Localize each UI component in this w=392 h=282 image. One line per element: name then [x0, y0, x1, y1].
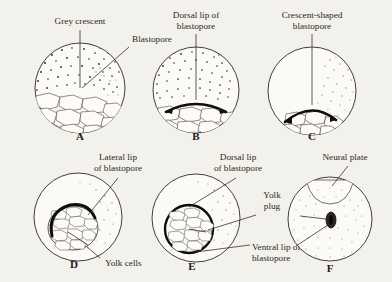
label-yolk-plug-line2: plug — [264, 201, 281, 211]
gastrulation-figure: Grey crescent Blastopore A — [0, 0, 392, 282]
label-blastopore: Blastopore — [132, 34, 172, 44]
panel-d: Lateral lip of blastopore Yolk cells D — [34, 152, 142, 270]
panel-letter-d: D — [70, 258, 78, 270]
label-dorsal-lip-line2: blastopore — [177, 21, 215, 31]
label-lateral-lip-line1: Lateral lip — [99, 152, 137, 162]
label-yolk-plug-line1: Yolk — [263, 190, 281, 200]
label-dorsal-lip-line1: Dorsal lip of — [173, 10, 220, 20]
label-grey-crescent: Grey crescent — [55, 16, 106, 26]
label-dorsal-lip-e-line2: of blastopore — [214, 163, 262, 173]
label-lateral-lip-line2: of blastopore — [94, 163, 142, 173]
panel-letter-f: F — [327, 262, 334, 274]
panel-a: Grey crescent Blastopore A — [32, 16, 172, 150]
panel-f: Neural plate F — [288, 152, 372, 274]
label-crescent-line2: blastopore — [293, 21, 331, 31]
panel-letter-a: A — [76, 130, 84, 142]
panel-letter-e: E — [188, 260, 195, 272]
label-ventral-lip-line2: blastopore — [252, 253, 290, 263]
panel-e: Dorsal lip of blastopore Yolk plug Ventr… — [152, 152, 301, 272]
label-crescent-line1: Crescent-shaped — [282, 10, 343, 20]
panel-letter-b: B — [192, 130, 200, 142]
label-dorsal-lip-e-line1: Dorsal lip — [220, 152, 257, 162]
label-yolk-cells: Yolk cells — [105, 258, 142, 268]
blastopore-opening-f — [329, 215, 333, 225]
label-neural-plate: Neural plate — [322, 152, 367, 162]
label-ventral-lip-line1: Ventral lip of — [252, 242, 301, 252]
panel-c: Crescent-shaped blastopore C — [268, 10, 356, 158]
panel-letter-c: C — [308, 130, 316, 142]
panel-b: Dorsal lip of blastopore B — [153, 10, 240, 156]
